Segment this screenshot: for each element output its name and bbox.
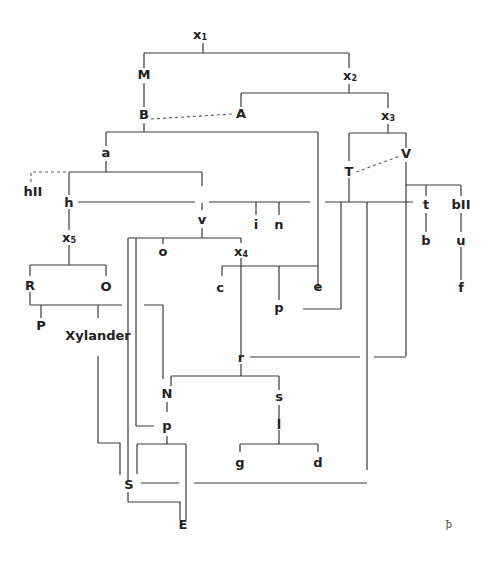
node-n: n bbox=[274, 217, 283, 232]
stemma-diagram: x1 M x2 B A x3 a V T hII h t bII v i n x… bbox=[0, 0, 496, 561]
node-P: P bbox=[36, 318, 46, 333]
node-t: t bbox=[423, 197, 429, 212]
node-u: u bbox=[456, 233, 465, 248]
node-i: i bbox=[254, 217, 258, 232]
node-e: e bbox=[314, 279, 323, 294]
node-x2: x2 bbox=[343, 68, 357, 83]
node-V: V bbox=[401, 146, 411, 161]
node-hII: hII bbox=[24, 184, 43, 199]
node-T: T bbox=[345, 164, 354, 179]
node-R: R bbox=[25, 278, 35, 293]
node-M: M bbox=[138, 67, 151, 82]
node-g: g bbox=[235, 455, 244, 470]
node-S: S bbox=[124, 477, 133, 492]
node-x4: x4 bbox=[234, 244, 248, 259]
node-Xylander: Xylander bbox=[65, 328, 131, 343]
corner-mark: ꝥ bbox=[445, 519, 452, 530]
node-E: E bbox=[179, 517, 188, 532]
node-b: b bbox=[421, 233, 430, 248]
node-O: O bbox=[100, 279, 111, 294]
node-N: N bbox=[162, 386, 173, 401]
node-x3: x3 bbox=[381, 108, 395, 123]
node-r: r bbox=[238, 350, 245, 365]
node-l: l bbox=[277, 417, 281, 432]
node-d: d bbox=[313, 455, 322, 470]
node-o: o bbox=[159, 244, 168, 259]
node-p-lower: p bbox=[162, 418, 171, 433]
node-a: a bbox=[102, 145, 111, 160]
node-p-upper: p bbox=[274, 300, 283, 315]
node-x5: x5 bbox=[62, 230, 76, 245]
node-v: v bbox=[198, 212, 207, 227]
node-B: B bbox=[139, 107, 149, 122]
node-x1: x1 bbox=[193, 27, 207, 42]
node-bII: bII bbox=[452, 197, 471, 212]
node-f: f bbox=[458, 280, 464, 295]
node-s: s bbox=[275, 389, 283, 404]
stemma-nodes: x1 M x2 B A x3 a V T hII h t bII v i n x… bbox=[24, 27, 471, 532]
node-h: h bbox=[64, 195, 73, 210]
node-A: A bbox=[236, 106, 246, 121]
node-c: c bbox=[216, 280, 224, 295]
